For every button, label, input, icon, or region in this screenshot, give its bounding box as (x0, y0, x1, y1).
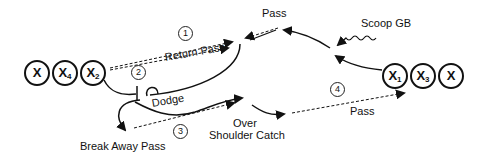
pass-arrow-top (246, 28, 278, 38)
pass-arrow-step4 (292, 93, 404, 113)
run-after-catch (252, 105, 284, 115)
player-x: X (24, 60, 50, 86)
label-break-away-pass: Break Away Pass (80, 141, 165, 152)
ground-ball-squiggle (338, 36, 376, 45)
player-x3: X3 (410, 63, 436, 89)
step-badge-2: 2 (131, 65, 146, 80)
label-shoulder-catch: Shoulder Catch (209, 130, 285, 141)
label-over: Over (233, 118, 257, 129)
pass-arrow-top-solid (250, 30, 276, 40)
run-line-x1 (336, 56, 382, 70)
player-x4: X4 (52, 60, 78, 86)
run-line-x2 (104, 80, 136, 94)
step-badge-1: 1 (178, 26, 193, 41)
carry-line (284, 30, 330, 48)
step-badge-3: 3 (173, 124, 188, 139)
label-pass-top: Pass (262, 8, 286, 19)
break-away-curve (119, 100, 140, 130)
player-x1: X1 (382, 63, 408, 89)
label-scoop-gb: Scoop GB (361, 18, 411, 29)
player-x-right: X (438, 63, 464, 89)
step-badge-4: 4 (330, 82, 345, 97)
label-pass-bottom: Pass (350, 106, 374, 117)
player-x2: X2 (80, 60, 106, 86)
